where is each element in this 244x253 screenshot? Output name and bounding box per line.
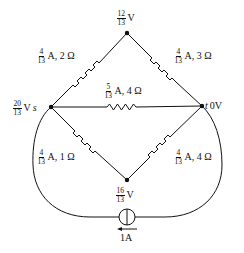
node-top-voltage-label: 1213 V bbox=[117, 10, 135, 26]
wire-s-bottom-resistor bbox=[51, 107, 127, 180]
wire-bottom-t-resistor bbox=[127, 106, 202, 180]
edge-s-t-label: 513 A, 4 Ω bbox=[104, 83, 142, 99]
node-bottom-voltage-label: 1613 V bbox=[116, 187, 134, 203]
edge-s-bottom-label: 413 A, 1 Ω bbox=[37, 149, 75, 165]
node-bottom bbox=[125, 178, 129, 182]
edge-top-t-label: 413 A, 3 Ω bbox=[174, 48, 212, 64]
node-t-voltage-label: t 0V bbox=[205, 101, 222, 111]
node-s-voltage-label: 2013 V s bbox=[13, 100, 37, 116]
node-top bbox=[125, 31, 129, 35]
circuit-diagram bbox=[0, 0, 244, 253]
current-source-label: 1A bbox=[120, 233, 132, 243]
edge-bottom-t-label: 413 A, 4 Ω bbox=[174, 149, 212, 165]
wire-s-t-resistor bbox=[51, 104, 202, 110]
node-s bbox=[49, 105, 53, 109]
node-t bbox=[200, 104, 204, 108]
edge-s-top-label: 413 A, 2 Ω bbox=[37, 48, 75, 64]
